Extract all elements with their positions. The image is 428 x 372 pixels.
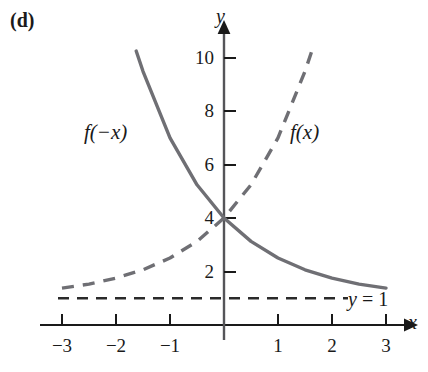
plot-canvas [0, 0, 428, 372]
asymptote-label-equation: = 1 [357, 288, 388, 310]
x-tick-label-2: 2 [315, 336, 349, 355]
curve-label-f-x: f(x) [290, 122, 319, 143]
x-tick-label-neg1: −1 [153, 336, 187, 355]
y-tick-marks [224, 58, 236, 272]
asymptote-label-variable: y [348, 288, 357, 310]
curve-label-f-negative-x: f(−x) [84, 122, 127, 143]
y-tick-label-4: 4 [180, 208, 214, 227]
x-tick-label-neg3: −3 [45, 336, 79, 355]
figure-panel-d: (d) y x 10 8 6 4 2 −3 −2 −1 1 2 3 f(−x) … [0, 0, 428, 372]
y-tick-label-6: 6 [180, 155, 214, 174]
y-axis-label: y [216, 6, 225, 26]
y-tick-label-2: 2 [180, 262, 214, 281]
x-tick-label-3: 3 [369, 336, 403, 355]
x-axis-label: x [408, 312, 417, 332]
y-tick-label-10: 10 [180, 48, 214, 67]
x-tick-label-neg2: −2 [99, 336, 133, 355]
asymptote-label: y = 1 [348, 289, 388, 309]
y-tick-label-8: 8 [180, 101, 214, 120]
panel-label: (d) [10, 10, 34, 30]
x-tick-label-1: 1 [261, 336, 295, 355]
